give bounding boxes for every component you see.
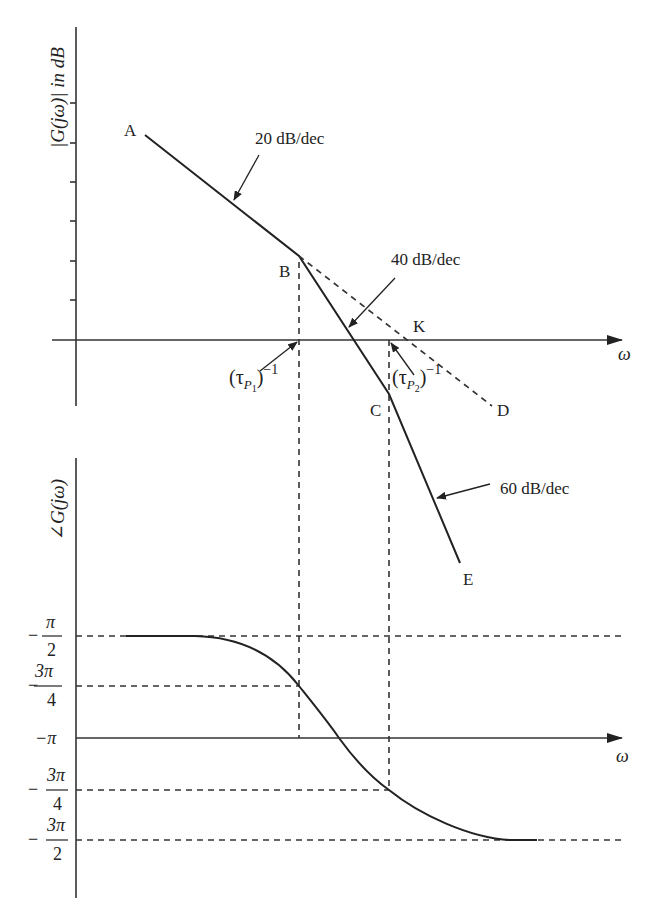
- point-d-label: D: [497, 401, 509, 420]
- point-c-label: C: [370, 401, 381, 420]
- corner1-arrow: [260, 342, 297, 371]
- corner2-label: (τP2)−1: [392, 362, 441, 394]
- svg-text:2: 2: [53, 844, 62, 864]
- svg-text:4: 4: [53, 794, 62, 814]
- svg-text:−: −: [28, 625, 38, 645]
- bode-diagram: ω |G(jω)| in dB A B K C D E 20 dB/dec 40…: [0, 0, 660, 924]
- phase-tick-minus-3pi-over-4: − 3π 4: [28, 661, 62, 710]
- svg-text:(τP1)−1: (τP1)−1: [229, 362, 278, 394]
- slope-40-label: 40 dB/dec: [391, 250, 461, 269]
- svg-text:−π: −π: [35, 728, 57, 748]
- svg-text:3π: 3π: [46, 765, 66, 785]
- svg-text:4: 4: [47, 690, 56, 710]
- phase-tick-minus-pi-over-2: − π 2: [28, 612, 62, 660]
- slope-40-arrow: [349, 278, 395, 327]
- point-a-label: A: [124, 121, 137, 140]
- point-k-label: K: [413, 317, 426, 336]
- point-b-label: B: [279, 262, 290, 281]
- phase-y-label: ∠G(jω): [47, 479, 69, 540]
- svg-text:−: −: [28, 779, 38, 799]
- svg-text:π: π: [46, 612, 56, 632]
- slope-20-arrow: [234, 155, 259, 200]
- phase-x-label: ω: [616, 746, 629, 766]
- svg-text:3π: 3π: [46, 815, 66, 835]
- magnitude-plot: ω |G(jω)| in dB A B K C D E 20 dB/dec 40…: [47, 27, 631, 790]
- svg-text:−: −: [28, 829, 38, 849]
- point-e-label: E: [463, 570, 473, 589]
- magnitude-x-label: ω: [618, 344, 631, 364]
- slope-60-arrow: [437, 484, 490, 498]
- svg-text:3π: 3π: [34, 661, 54, 681]
- phase-tick-minus-pi: −π: [35, 728, 57, 748]
- phase-tick-minus-3pi-over-2: − 3π 2: [28, 815, 68, 864]
- magnitude-y-ticks: [70, 103, 76, 300]
- magnitude-y-label: |G(jω)| in dB: [47, 47, 69, 148]
- phase-plot: ∠G(jω) ω − π 2 − 3π 4 −π − 3π 4: [28, 458, 629, 898]
- slope-20-label: 20 dB/dec: [255, 129, 325, 148]
- slope-60-label: 60 dB/dec: [500, 479, 570, 498]
- corner1-label: (τP1)−1: [229, 362, 278, 394]
- svg-text:(τP2)−1: (τP2)−1: [392, 362, 441, 394]
- svg-text:2: 2: [47, 640, 56, 660]
- magnitude-asymptote: [145, 135, 460, 563]
- phase-tick-minus-5pi-over-4: − 3π 4: [28, 765, 68, 814]
